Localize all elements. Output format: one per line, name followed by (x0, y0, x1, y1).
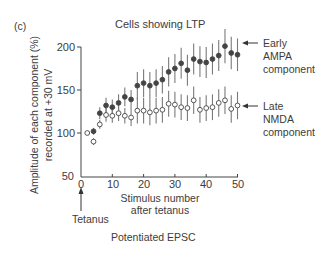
late-nmda-point (116, 111, 121, 116)
early-ampa-point (173, 66, 178, 71)
late-nmda-point (191, 98, 196, 103)
early-ampa-point (210, 57, 215, 62)
early-ampa-point (129, 97, 134, 102)
data-points (85, 44, 240, 144)
early-ampa-point (91, 129, 96, 134)
late-nmda-point (141, 108, 146, 113)
late-nmda-point (216, 101, 221, 106)
early-ampa-point (179, 61, 184, 66)
late-nmda-point (129, 115, 134, 120)
early-ampa-point (191, 57, 196, 62)
early-ampa-point (223, 44, 228, 49)
baseline-point (85, 131, 90, 136)
late-nmda-point (160, 107, 165, 112)
early-ampa-point (116, 101, 121, 106)
late-nmda-point (110, 113, 115, 118)
early-ampa-point (235, 52, 240, 57)
early-ampa-point (204, 60, 209, 65)
late-nmda-point (97, 122, 102, 127)
late-nmda-point (198, 107, 203, 112)
late-nmda-point (104, 113, 109, 118)
late-nmda-point (122, 113, 127, 118)
early-ampa-point (154, 81, 159, 86)
late-nmda-point (166, 101, 171, 106)
plot-area (0, 0, 334, 253)
early-ampa-point (104, 103, 109, 108)
late-nmda-point (135, 108, 140, 113)
late-nmda-point (91, 139, 96, 144)
early-ampa-point (122, 94, 127, 99)
early-ampa-point (135, 83, 140, 88)
late-nmda-point (173, 102, 178, 107)
late-nmda-point (154, 108, 159, 113)
early-ampa-point (216, 53, 221, 58)
late-nmda-point (147, 110, 152, 115)
late-nmda-point (204, 106, 209, 111)
early-arrow-icon (242, 41, 258, 46)
early-ampa-point (229, 51, 234, 56)
late-nmda-point (210, 105, 215, 110)
late-nmda-point (229, 107, 234, 112)
error-bars (94, 29, 238, 145)
late-arrow-icon (242, 104, 258, 109)
early-ampa-point (185, 68, 190, 73)
early-ampa-point (147, 83, 152, 88)
late-nmda-point (179, 105, 184, 110)
early-ampa-point (97, 111, 102, 116)
late-nmda-point (223, 98, 228, 103)
early-ampa-point (110, 105, 115, 110)
late-nmda-point (185, 106, 190, 111)
late-nmda-point (235, 103, 240, 108)
tetanus-arrow-icon (79, 187, 84, 211)
early-ampa-point (198, 59, 203, 64)
early-ampa-point (160, 77, 165, 82)
early-ampa-point (166, 70, 171, 75)
early-ampa-point (141, 81, 146, 86)
